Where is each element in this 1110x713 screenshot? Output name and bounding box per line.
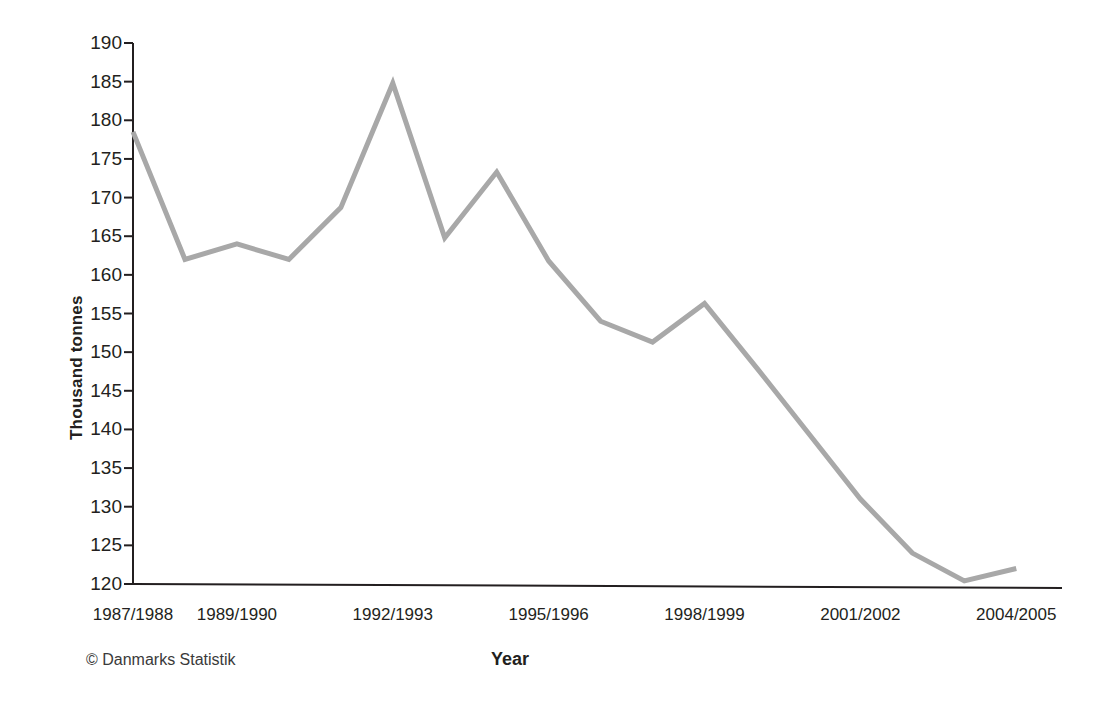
y-axis-tick-marks: [124, 43, 133, 584]
x-axis-line: [133, 584, 1062, 588]
x-axis-tick-labels: 1987/19881989/19901992/19931995/19961998…: [0, 604, 1110, 630]
x-axis-tick-label: 1987/1988: [73, 604, 193, 626]
x-axis-tick-label: 2004/2005: [956, 604, 1076, 626]
chart-figure: Thousand tonnes 190185180175170165160155…: [0, 0, 1110, 713]
data-line-series-thousand-tonnes: [133, 83, 1016, 581]
copyright-credit: © Danmarks Statistik: [86, 650, 236, 670]
x-axis-tick-label: 1989/1990: [177, 604, 297, 626]
x-axis-tick-label: 1998/1999: [645, 604, 765, 626]
x-axis-tick-label: 1995/1996: [489, 604, 609, 626]
x-axis-title: Year: [390, 648, 630, 670]
x-axis-tick-label: 2001/2002: [800, 604, 920, 626]
x-axis-tick-label: 1992/1993: [333, 604, 453, 626]
